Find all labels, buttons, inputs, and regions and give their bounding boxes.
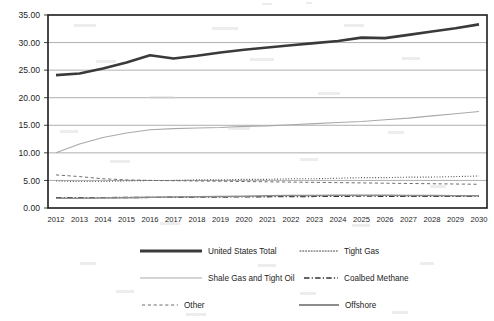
scan-artifact [110, 160, 130, 163]
x-axis-tick-label: 2027 [400, 215, 417, 224]
x-axis-tick-label: 2018 [189, 215, 206, 224]
legend-label: Coalbed Methane [344, 274, 409, 283]
x-axis-tick-label: 2014 [95, 215, 112, 224]
x-axis-tick-label: 2028 [424, 215, 441, 224]
y-axis-tick-label: 20.00 [18, 93, 40, 103]
scan-artifact [258, 264, 276, 267]
y-axis-tick-label: 25.00 [18, 65, 40, 75]
scan-artifact [262, 3, 272, 5]
legend-label: United States Total [208, 247, 277, 256]
scan-artifact [228, 127, 250, 130]
x-axis-tick-label: 2019 [212, 215, 229, 224]
scan-artifact [250, 58, 274, 61]
scan-artifact [212, 27, 238, 30]
y-axis-tick-label: 30.00 [18, 38, 40, 48]
chart-figure: 0.005.0010.0015.0020.0025.0030.0035.00 2… [0, 0, 494, 321]
legend-label: Other [184, 301, 205, 310]
x-axis-tick-label: 2022 [283, 215, 300, 224]
scan-artifact [388, 131, 404, 134]
x-axis-tick-label: 2029 [447, 215, 464, 224]
x-axis-tick-label: 2021 [259, 215, 276, 224]
scan-artifact [430, 185, 446, 188]
y-axis-tick-label: 10.00 [18, 148, 40, 158]
scan-artifact [392, 311, 408, 314]
y-axis-tick-label: 35.00 [18, 10, 40, 20]
x-axis-tick-label: 2016 [142, 215, 159, 224]
scan-artifact [60, 130, 78, 133]
scan-artifact [74, 24, 96, 27]
scan-artifact [80, 262, 96, 265]
scan-artifact [306, 2, 312, 4]
scan-artifact [352, 224, 370, 227]
x-axis-tick-label: 2030 [471, 215, 488, 224]
x-axis-tick-label: 2026 [377, 215, 394, 224]
line-chart-canvas: 0.005.0010.0015.0020.0025.0030.0035.00 2… [0, 0, 494, 321]
x-axis-tick-label: 2023 [306, 215, 323, 224]
y-axis-tick-label: 5.00 [23, 176, 40, 186]
scan-artifact [160, 222, 180, 225]
legend-label: Tight Gas [344, 247, 379, 256]
y-axis-tick-label: 0.00 [23, 203, 40, 213]
chart-background [0, 0, 494, 321]
legend-label: Shale Gas and Tight Oil [208, 274, 295, 283]
scan-artifact [150, 96, 174, 99]
scan-artifact [186, 313, 206, 316]
x-axis-tick-label: 2025 [353, 215, 370, 224]
scan-artifact [116, 290, 134, 293]
scan-artifact [318, 92, 340, 95]
x-axis-tick-label: 2015 [118, 215, 135, 224]
x-axis-tick-label: 2012 [48, 215, 65, 224]
x-axis-tick-label: 2020 [236, 215, 253, 224]
x-axis-tick-label: 2024 [330, 215, 347, 224]
scan-artifact [96, 60, 116, 63]
scan-artifact [420, 262, 434, 265]
scan-artifact [300, 292, 316, 295]
scan-artifact [402, 57, 420, 60]
x-axis-tick-label: 2013 [71, 215, 88, 224]
scan-artifact [344, 24, 364, 27]
legend-label: Offshore [345, 301, 377, 310]
y-axis-tick-label: 15.00 [18, 120, 40, 130]
scan-artifact [300, 158, 318, 161]
